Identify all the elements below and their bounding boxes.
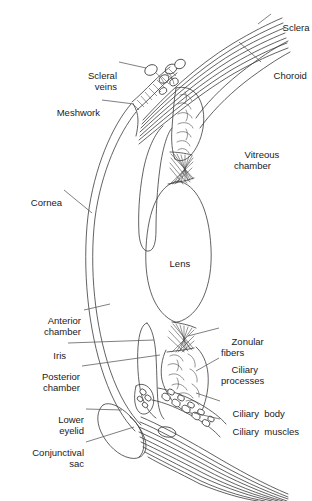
- leader-ciliary-body: [196, 393, 220, 401]
- zonular-fibers-upper: [168, 152, 194, 184]
- label-ciliary-muscles-text: Ciliary muscles: [233, 426, 300, 437]
- label-scleral-veins-line1: Scleral veins: [88, 70, 117, 93]
- label-vitreous-chamber: Vitreous chamber: [234, 137, 300, 183]
- label-choroid-text: Choroid: [274, 70, 307, 81]
- leader-cornea: [64, 190, 92, 213]
- leader-posterior-chamber: [82, 355, 160, 366]
- ciliary-body-lower: [161, 347, 208, 413]
- label-ciliary-processes: Ciliary processes: [221, 352, 293, 398]
- label-meshwork: Meshwork: [38, 95, 100, 130]
- label-lens-text: Lens: [170, 258, 191, 269]
- label-sclera-text: Sclera: [283, 22, 310, 33]
- label-cornea: Cornea: [16, 185, 62, 220]
- trabecular-meshwork: [132, 67, 177, 136]
- leader-scleral-veins: [119, 62, 146, 68]
- label-posterior-chamber: Posterior chamber: [16, 359, 80, 405]
- leader-anterior-chamber: [84, 304, 110, 310]
- zonular-fibers-lower: [167, 322, 196, 352]
- leader-conjunctival-sac: [86, 427, 134, 442]
- label-conjunctival-sac: Conjunctival sac: [12, 435, 84, 481]
- label-meshwork-text: Meshwork: [57, 107, 100, 118]
- label-vitreous-chamber-text: Vitreous chamber: [234, 149, 279, 172]
- label-ciliary-muscles: Ciliary muscles: [222, 414, 308, 449]
- cornea-layer: [86, 104, 141, 431]
- label-posterior-chamber-text: Posterior chamber: [42, 371, 80, 394]
- label-ciliary-processes-text: Ciliary processes: [221, 364, 264, 387]
- leader-zonular-fibers: [188, 328, 219, 336]
- leader-sclera: [258, 14, 271, 24]
- iris-upper: [139, 126, 172, 251]
- label-lens: Lens: [159, 246, 189, 281]
- ciliary-body-upper: [172, 87, 204, 160]
- label-choroid: Choroid: [263, 58, 311, 93]
- eye-anatomy-diagram: Scleral veins Sclera Choroid Meshwork Vi…: [0, 0, 312, 501]
- label-lower-eyelid-text: Lower eyelid: [58, 414, 84, 437]
- leader-lower-eyelid: [86, 409, 122, 410]
- label-sclera: Sclera: [272, 10, 312, 45]
- label-cornea-text: Cornea: [31, 197, 62, 208]
- scleral-veins: [143, 57, 187, 95]
- iris-lower: [138, 323, 164, 419]
- label-anterior-chamber-text: Anterior chamber: [44, 315, 81, 338]
- label-conjunctival-sac-text: Conjunctival sac: [32, 447, 84, 470]
- ciliary-muscle-mass: [135, 384, 226, 438]
